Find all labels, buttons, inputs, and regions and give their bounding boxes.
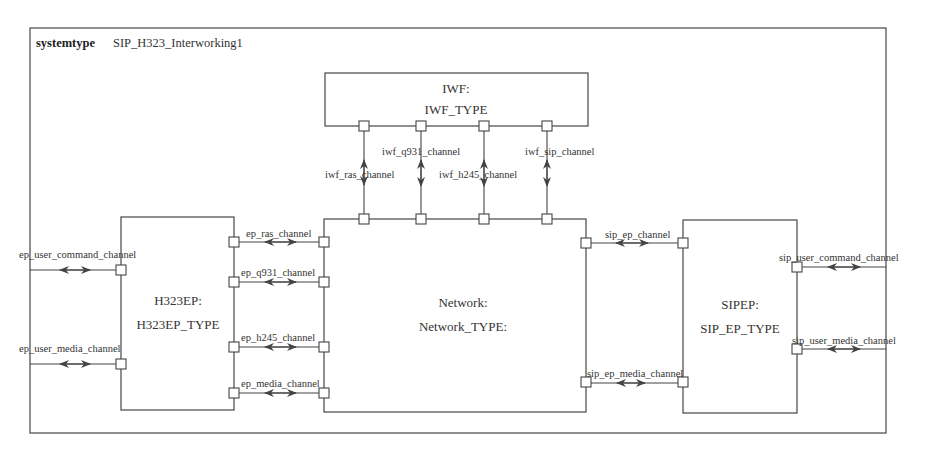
ep-h245-label: ep_h245_channel: [241, 332, 315, 343]
h323ep-instance-label: H323EP:: [154, 293, 202, 308]
iwf-ras-label: iwf_ras_channel: [325, 169, 394, 180]
block-network[interactable]: Network: Network_TYPE:: [324, 219, 586, 412]
sipep-instance-label: SIPEP:: [721, 297, 759, 312]
network-type-label: Network_TYPE:: [419, 319, 507, 334]
iwf-h245-label: iwf_h245_channel: [439, 169, 517, 180]
channel-ep-media[interactable]: ep_media_channel: [229, 378, 329, 398]
channel-sip-ep[interactable]: sip_ep_channel: [581, 229, 688, 248]
system-keyword: systemtype: [36, 36, 95, 50]
channel-ep-user-media[interactable]: ep_user_media_channel: [19, 343, 126, 369]
channel-iwf-h245[interactable]: iwf_h245_channel: [439, 121, 517, 224]
block-iwf[interactable]: IWF: IWF_TYPE: [325, 73, 588, 126]
channel-ep-q931[interactable]: ep_q931_channel: [229, 267, 329, 287]
channel-ep-ras[interactable]: ep_ras_channel: [229, 228, 329, 247]
ep-ras-label: ep_ras_channel: [246, 228, 311, 239]
h323ep-type-label: H323EP_TYPE: [136, 317, 219, 332]
iwf-sip-label: iwf_sip_channel: [525, 146, 594, 157]
ep-media-label: ep_media_channel: [241, 378, 320, 389]
sipep-type-label: SIP_EP_TYPE: [700, 321, 780, 336]
system-name: SIP_H323_Interworking1: [113, 36, 243, 50]
ep-user-command-label: ep_user_command_channel: [19, 249, 136, 260]
sip-ep-label: sip_ep_channel: [605, 229, 670, 240]
block-h323ep[interactable]: H323EP: H323EP_TYPE: [121, 217, 234, 410]
channel-sip-user-command[interactable]: sip_user_command_channel: [779, 252, 899, 272]
ep-user-media-label: ep_user_media_channel: [19, 343, 121, 354]
sip-ep-media-label: sip_ep_media_channel: [587, 368, 683, 379]
ep-q931-label: ep_q931_channel: [241, 267, 315, 278]
system-diagram: systemtype SIP_H323_Interworking1 IWF: I…: [0, 0, 931, 458]
channel-sip-user-media[interactable]: sip_user_media_channel: [792, 335, 896, 354]
channel-iwf-ras[interactable]: iwf_ras_channel: [325, 121, 394, 224]
iwf-type-label: IWF_TYPE: [425, 102, 488, 117]
channel-ep-h245[interactable]: ep_h245_channel: [229, 332, 329, 352]
iwf-instance-label: IWF:: [442, 81, 469, 96]
channel-sip-ep-media[interactable]: sip_ep_media_channel: [581, 368, 688, 387]
block-sipep[interactable]: SIPEP: SIP_EP_TYPE: [683, 220, 797, 413]
sip-user-command-label: sip_user_command_channel: [779, 252, 899, 263]
sip-user-media-label: sip_user_media_channel: [792, 335, 896, 346]
iwf-q931-label: iwf_q931_channel: [382, 146, 460, 157]
channel-iwf-sip[interactable]: iwf_sip_channel: [525, 121, 594, 224]
network-instance-label: Network:: [438, 295, 487, 310]
channel-ep-user-command[interactable]: ep_user_command_channel: [19, 249, 136, 275]
